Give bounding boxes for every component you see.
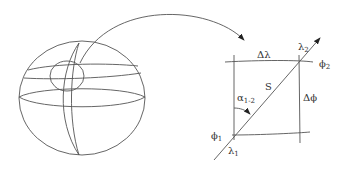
sphere-outline [19, 41, 145, 155]
label-alpha: α1-2 [237, 92, 255, 105]
azimuth-arc [234, 108, 250, 114]
geodesy-diagram: Δλ λ2 ϕ2 S α1-2 Δϕ ϕ1 λ1 [0, 0, 348, 172]
label-s: S [265, 81, 272, 92]
zoom-arrow [80, 14, 244, 63]
label-lambda2: λ2 [298, 41, 309, 54]
meridian-lambda2 [299, 55, 300, 143]
label-phi1: ϕ1 [211, 130, 222, 143]
label-delta-phi: Δϕ [303, 92, 317, 103]
label-delta-lambda: Δλ [257, 49, 271, 60]
equator-front [19, 97, 145, 107]
parallel-phi1 [232, 132, 310, 135]
parallel-1 [28, 64, 138, 70]
parallel-2 [24, 73, 141, 79]
meridian-2 [71, 43, 79, 155]
zoom-region-circle [50, 61, 84, 91]
equator-back [19, 89, 145, 97]
sphere [19, 41, 145, 155]
label-phi2: ϕ2 [319, 58, 330, 71]
label-lambda1: λ1 [228, 145, 239, 158]
